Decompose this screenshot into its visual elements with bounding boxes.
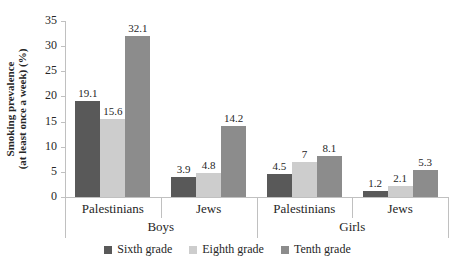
axis-separator-line [161,197,162,218]
y-tick-mark [61,172,65,173]
bar-value-label: 5.3 [405,155,445,169]
category-label: Palestinians [65,201,161,216]
bar [221,126,246,197]
legend-label: Eighth grade [202,242,264,257]
y-tick-mark [61,21,65,22]
axis-separator-line [448,197,449,238]
y-axis-line [65,21,66,197]
y-tick-mark [61,46,65,47]
bar [363,191,388,197]
category-label: Jews [161,201,257,216]
y-axis-title-line1: Smoking prevalence [4,49,16,170]
bar [292,162,317,197]
bar [267,174,292,197]
category-label: Palestinians [257,201,353,216]
legend-marker-icon [281,246,289,254]
y-tick-mark [61,71,65,72]
bar [196,173,221,197]
bar [125,36,150,197]
axis-separator-line [352,197,353,218]
y-tick-mark [61,96,65,97]
bar [413,170,438,197]
y-tick-label: 35 [25,13,57,28]
legend: Sixth gradeEighth gradeTenth grade [0,242,455,257]
bar [100,119,125,197]
bar-value-label: 32.1 [118,21,158,35]
bar [317,156,342,197]
y-tick-label: 5 [25,164,57,179]
y-tick-label: 0 [25,189,57,204]
legend-item: Eighth grade [189,242,264,257]
bar-value-label: 8.1 [309,141,349,155]
legend-marker-icon [104,246,112,254]
legend-marker-icon [189,246,197,254]
legend-item: Sixth grade [104,242,172,257]
y-tick-label: 15 [25,114,57,129]
gender-label: Girls [257,219,449,234]
y-tick-label: 25 [25,63,57,78]
bar-value-label: 19.1 [68,86,108,100]
bar-value-label: 14.2 [214,111,254,125]
y-tick-label: 10 [25,139,57,154]
y-tick-mark [61,122,65,123]
legend-label: Sixth grade [117,242,172,257]
bar [388,186,413,197]
gender-label: Boys [65,219,257,234]
legend-label: Tenth grade [294,242,351,257]
y-tick-label: 20 [25,88,57,103]
y-tick-mark [61,147,65,148]
category-label: Jews [352,201,448,216]
legend-item: Tenth grade [281,242,351,257]
chart-figure: Smoking prevalence (at least once a week… [0,0,455,269]
y-tick-label: 30 [25,38,57,53]
bar [171,177,196,197]
